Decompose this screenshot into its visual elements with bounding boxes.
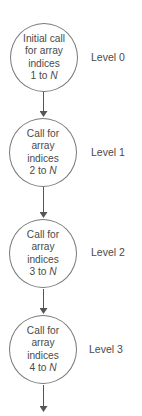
node-range: 1 to N (30, 70, 57, 83)
node-line: Call for (27, 229, 59, 242)
level-label-1: Level 1 (91, 146, 125, 158)
node-line: array (31, 337, 54, 350)
node-line: indices (27, 153, 59, 166)
node-line: Initial call (23, 33, 65, 46)
level-label-0: Level 0 (91, 51, 125, 63)
node-range: 3 to N (29, 266, 56, 279)
node-range: 2 to N (29, 165, 56, 178)
call-node-level-1: Call for array indices 2 to N (9, 118, 77, 187)
level-label-3: Level 3 (89, 343, 123, 355)
node-line: Call for (27, 325, 59, 338)
recursion-diagram: Initial call for array indices 1 to N Le… (0, 0, 142, 416)
node-line: indices (27, 254, 59, 267)
node-line: array (31, 241, 54, 254)
node-range: 4 to N (29, 362, 56, 375)
node-line: array (31, 140, 54, 153)
node-line: indices (28, 58, 60, 71)
node-line: indices (27, 350, 59, 363)
call-node-level-3: Call for array indices 4 to N (9, 315, 77, 384)
call-node-level-2: Call for array indices 3 to N (9, 219, 77, 288)
node-line: Call for (27, 128, 59, 141)
level-label-2: Level 2 (91, 246, 125, 258)
node-line: for array (25, 45, 63, 58)
call-node-level-0: Initial call for array indices 1 to N (10, 23, 78, 92)
